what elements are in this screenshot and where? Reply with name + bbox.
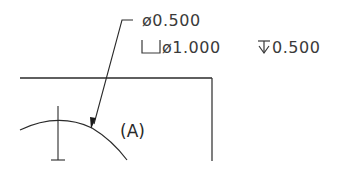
leader-line <box>94 20 133 124</box>
counterbore-diameter-text: ø1.000 <box>162 38 221 57</box>
hole-arc <box>20 120 127 160</box>
depth-icon <box>258 41 270 53</box>
counterbore-depth-text: 0.500 <box>272 38 320 57</box>
counterbore-icon <box>142 40 160 53</box>
leader-arrowhead <box>90 117 96 129</box>
hole-diameter-text: ø0.500 <box>142 11 201 30</box>
technical-drawing: ø0.500 ø1.000 0.500 (A) <box>0 0 360 174</box>
feature-label: (A) <box>120 121 145 141</box>
